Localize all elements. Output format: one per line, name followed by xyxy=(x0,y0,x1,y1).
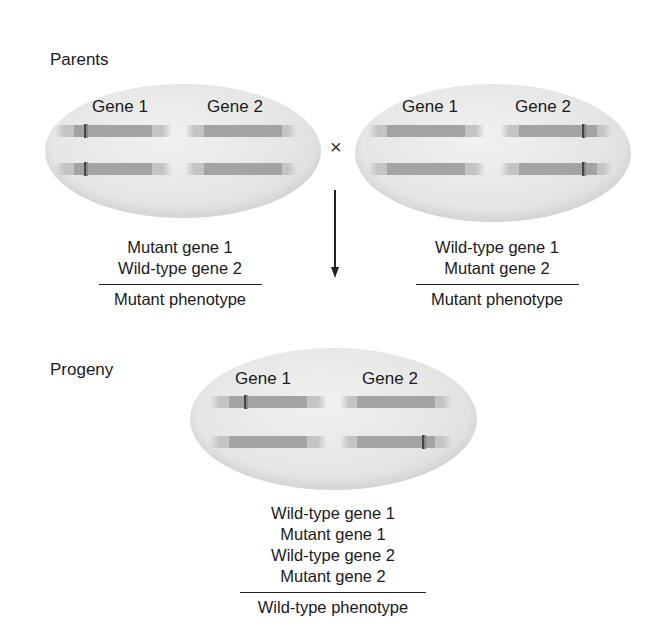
progeny-chrom1-gene2 xyxy=(340,396,452,408)
progeny-chrom2-gene1 xyxy=(210,436,327,448)
right-parent-chrom2-gene2 xyxy=(500,163,612,175)
right-parent-chrom1-gene1 xyxy=(368,125,485,137)
mutation-mark-icon xyxy=(84,124,86,138)
progeny-gene1-label: Gene 1 xyxy=(208,369,318,389)
mutation-mark-icon xyxy=(422,435,424,449)
genotype-line: Mutant gene 2 xyxy=(407,258,587,279)
progeny-label: Progeny xyxy=(50,360,113,380)
mutation-mark-icon xyxy=(244,395,246,409)
arrow-head-icon xyxy=(331,267,339,278)
right-parent-chrom1-gene2 xyxy=(500,125,612,137)
progeny-chrom1-gene1 xyxy=(210,396,327,408)
cross-icon: × xyxy=(330,136,342,159)
genotype-line: Wild-type gene 1 xyxy=(233,503,433,524)
left-parent-gene1-label: Gene 1 xyxy=(65,97,175,117)
right-parent-genotype: Wild-type gene 1 Mutant gene 2 Mutant ph… xyxy=(407,237,587,310)
progeny-gene2-label: Gene 2 xyxy=(335,369,445,389)
right-parent-gene1-label: Gene 1 xyxy=(375,97,485,117)
genotype-line: Mutant gene 2 xyxy=(233,566,433,587)
parents-label: Parents xyxy=(50,50,109,70)
left-parent-chrom2-gene1 xyxy=(55,163,172,175)
progeny-genotype: Wild-type gene 1 Mutant gene 1 Wild-type… xyxy=(233,503,433,618)
genotype-line: Mutant gene 1 xyxy=(90,237,270,258)
genotype-line: Wild-type gene 2 xyxy=(90,258,270,279)
left-parent-chrom2-gene2 xyxy=(185,163,297,175)
right-parent-gene2-label: Gene 2 xyxy=(488,97,598,117)
phenotype-label: Wild-type phenotype xyxy=(233,597,433,618)
progeny-chrom2-gene2 xyxy=(340,436,452,448)
right-parent-chrom2-gene1 xyxy=(368,163,485,175)
divider-rule xyxy=(99,284,262,285)
genotype-line: Wild-type gene 1 xyxy=(407,237,587,258)
divider-rule xyxy=(416,284,579,285)
mutation-mark-icon xyxy=(582,124,584,138)
left-parent-genotype: Mutant gene 1 Wild-type gene 2 Mutant ph… xyxy=(90,237,270,310)
mutation-mark-icon xyxy=(582,162,584,176)
arrow-down-icon xyxy=(334,190,336,268)
phenotype-label: Mutant phenotype xyxy=(90,289,270,310)
left-parent-chrom1-gene1 xyxy=(55,125,172,137)
divider-rule xyxy=(240,592,426,593)
left-parent-chrom1-gene2 xyxy=(185,125,297,137)
genotype-line: Mutant gene 1 xyxy=(233,524,433,545)
genotype-line: Wild-type gene 2 xyxy=(233,545,433,566)
mutation-mark-icon xyxy=(84,162,86,176)
phenotype-label: Mutant phenotype xyxy=(407,289,587,310)
left-parent-gene2-label: Gene 2 xyxy=(180,97,290,117)
